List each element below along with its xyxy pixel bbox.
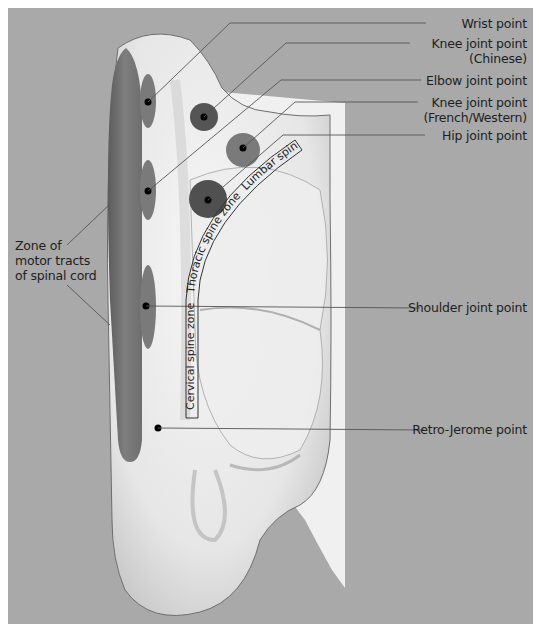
label-knee-french: Knee joint point (French/Western)	[423, 95, 527, 125]
label-shoulder-point: Shoulder joint point	[408, 300, 527, 315]
label-elbow-point: Elbow joint point	[426, 73, 527, 88]
label-motor-tracts: Zone of motor tracts of spinal cord	[15, 238, 97, 283]
label-knee-chinese: Knee joint point (Chinese)	[431, 36, 527, 66]
label-hip-point: Hip joint point	[442, 128, 527, 143]
label-wrist-point: Wrist point	[462, 16, 527, 31]
label-retro-jerome-point: Retro-Jerome point	[412, 422, 527, 437]
